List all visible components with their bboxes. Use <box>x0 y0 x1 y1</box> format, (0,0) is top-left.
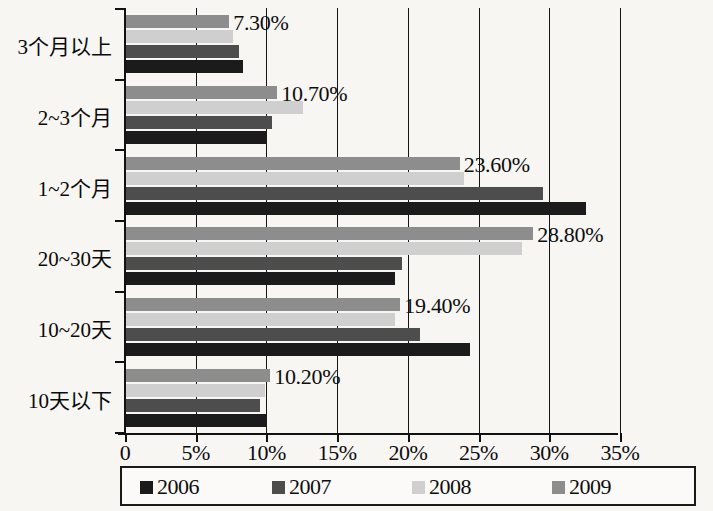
bar-2006-3个月以上 <box>126 60 243 73</box>
bar-2009-2~3个月 <box>126 86 277 99</box>
legend-item-2006[interactable]: 2006 <box>140 474 199 500</box>
gridline <box>549 8 550 433</box>
legend: 2006200720082009 <box>120 466 696 506</box>
bar-chart: 05%10%15%20%25%30%35% 3个月以上2~3个月1~2个月20~… <box>0 0 713 511</box>
category-label: 2~3个月 <box>0 101 112 131</box>
category-label: 20~30天 <box>0 242 112 272</box>
bar-2006-20~30天 <box>126 272 395 285</box>
bar-2006-2~3个月 <box>126 131 267 144</box>
legend-label: 2009 <box>569 474 611 500</box>
bar-2007-1~2个月 <box>126 187 543 200</box>
bar-2009-3个月以上 <box>126 15 229 28</box>
bar-2006-1~2个月 <box>126 202 586 215</box>
bar-2007-20~30天 <box>126 257 402 270</box>
category-label: 10天以下 <box>0 384 112 414</box>
bar-2006-10~20天 <box>126 343 470 356</box>
bar-2007-10天以下 <box>126 399 260 412</box>
category-label: 3个月以上 <box>0 30 112 60</box>
x-tick-label: 10% <box>247 440 286 466</box>
bar-2007-3个月以上 <box>126 45 239 58</box>
legend-label: 2007 <box>289 474 331 500</box>
x-tick-label: 5% <box>182 440 210 466</box>
bar-2008-10~20天 <box>126 313 395 326</box>
x-tick-label: 35% <box>600 440 639 466</box>
legend-item-2007[interactable]: 2007 <box>272 474 331 500</box>
x-tick-label: 25% <box>459 440 498 466</box>
bar-2008-1~2个月 <box>126 172 464 185</box>
legend-swatch-icon <box>272 481 285 494</box>
category-label: 1~2个月 <box>0 172 112 202</box>
y-tick-mark <box>115 361 125 363</box>
legend-item-2009[interactable]: 2009 <box>552 474 611 500</box>
data-label: 23.60% <box>464 152 530 178</box>
x-tick-label: 30% <box>530 440 569 466</box>
bar-2008-20~30天 <box>126 242 522 255</box>
gridline <box>620 8 621 433</box>
x-tick-label: 15% <box>318 440 357 466</box>
data-label: 7.30% <box>233 10 288 36</box>
x-tick-label: 0 <box>120 440 131 466</box>
bar-2009-20~30天 <box>126 227 533 240</box>
gridline <box>479 8 480 433</box>
legend-item-2008[interactable]: 2008 <box>412 474 471 500</box>
bar-2008-10天以下 <box>126 384 265 397</box>
y-tick-mark <box>115 432 125 434</box>
y-tick-mark <box>115 220 125 222</box>
legend-swatch-icon <box>552 481 565 494</box>
bar-2009-10~20天 <box>126 298 400 311</box>
data-label: 10.20% <box>274 364 340 390</box>
bar-2009-10天以下 <box>126 369 270 382</box>
bar-2007-10~20天 <box>126 328 420 341</box>
bar-2009-1~2个月 <box>126 157 460 170</box>
y-tick-mark <box>115 291 125 293</box>
bar-2008-3个月以上 <box>126 30 233 43</box>
y-tick-mark <box>115 149 125 151</box>
data-label: 19.40% <box>404 293 470 319</box>
bar-2008-2~3个月 <box>126 101 303 114</box>
bar-2007-2~3个月 <box>126 116 272 129</box>
paper-artifact <box>560 178 564 195</box>
legend-swatch-icon <box>412 481 425 494</box>
gridline <box>408 8 409 433</box>
bar-2006-10天以下 <box>126 414 267 427</box>
legend-swatch-icon <box>140 481 153 494</box>
legend-label: 2008 <box>429 474 471 500</box>
x-axis-line <box>118 433 618 435</box>
data-label: 28.80% <box>537 222 603 248</box>
y-tick-mark <box>115 8 125 10</box>
data-label: 10.70% <box>281 81 347 107</box>
category-label: 10~20天 <box>0 313 112 343</box>
x-tick-label: 20% <box>388 440 427 466</box>
plot-area: 05%10%15%20%25%30%35% 3个月以上2~3个月1~2个月20~… <box>0 0 713 460</box>
y-tick-mark <box>115 79 125 81</box>
legend-label: 2006 <box>157 474 199 500</box>
